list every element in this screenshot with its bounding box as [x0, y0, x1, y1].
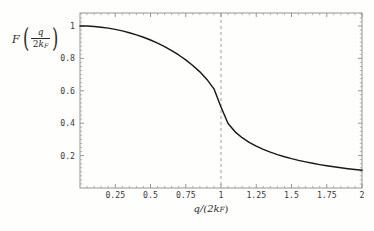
- x-tick-label: 2: [360, 190, 365, 200]
- x-tick-label: 1.75: [317, 190, 337, 200]
- fraction-numerator: q: [36, 28, 46, 37]
- figure-canvas: 0.250.50.7511.251.51.752 0.20.40.60.81 F…: [0, 0, 374, 231]
- x-tick-label: 0.5: [143, 190, 158, 200]
- y-tick-label: 0.6: [60, 86, 75, 96]
- y-axis-fraction: q 2kF: [31, 28, 51, 49]
- x-axis-ticks: [87, 13, 362, 188]
- fraction-denominator: 2kF: [31, 40, 51, 50]
- y-axis-label: F ( q 2kF ): [12, 22, 78, 56]
- x-label-tail: ): [225, 203, 229, 214]
- x-axis-label-text: q/(2kF): [194, 203, 229, 214]
- denominator-subscript: F: [44, 42, 48, 49]
- left-paren-glyph: (: [23, 28, 29, 49]
- x-axis-tick-labels: 0.250.50.7511.251.51.752: [105, 190, 364, 200]
- x-label-main: q/(2k: [194, 203, 220, 214]
- x-tick-label: 1.5: [284, 190, 299, 200]
- x-tick-label: 0.25: [105, 190, 125, 200]
- x-tick-label: 1.25: [246, 190, 266, 200]
- y-tick-label: 0.2: [60, 151, 75, 161]
- x-tick-label: 1: [219, 190, 224, 200]
- x-axis-label: q/(2kF): [0, 203, 374, 214]
- right-paren-glyph: ): [52, 28, 58, 49]
- y-tick-label: 0.4: [60, 118, 75, 128]
- y-axis-function-name: F: [12, 33, 20, 46]
- x-tick-label: 0.75: [176, 190, 196, 200]
